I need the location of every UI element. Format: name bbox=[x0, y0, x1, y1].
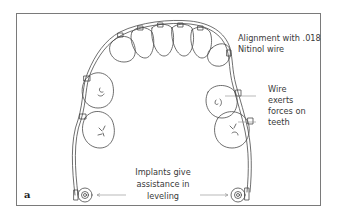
implant-right bbox=[231, 188, 249, 202]
annotation-implants-line1: Implants give bbox=[128, 166, 198, 178]
tooth-anterior-5 bbox=[191, 27, 212, 58]
tooth-anterior-2 bbox=[131, 28, 154, 59]
annotation-wire-forces-line2: exerts bbox=[268, 95, 306, 106]
annotation-implants: Implants give assistance in leveling bbox=[128, 166, 198, 202]
annotation-wire-forces-line4: teeth bbox=[268, 117, 306, 128]
tooth-anterior-3 bbox=[152, 24, 174, 56]
tooth-right-premolar-2 bbox=[214, 112, 249, 148]
implant-left bbox=[74, 188, 92, 202]
annotation-wire-forces: Wire exerts forces on teeth bbox=[268, 84, 306, 128]
annotation-alignment-line1: Alignment with .018 bbox=[238, 33, 321, 44]
annotation-alignment-line2: Nitinol wire bbox=[238, 44, 321, 55]
occlusal-mark-right-1 bbox=[215, 99, 222, 106]
tooth-left-premolar-2 bbox=[82, 111, 114, 148]
annotation-alignment: Alignment with .018 Nitinol wire bbox=[238, 33, 321, 54]
annotation-wire-forces-line1: Wire bbox=[268, 84, 306, 95]
annotation-implants-line2: assistance in bbox=[128, 178, 198, 190]
annotation-wire-forces-line3: forces on bbox=[268, 106, 306, 117]
occlusal-mark-right-2 bbox=[230, 124, 238, 135]
tooth-anterior-4 bbox=[172, 24, 194, 56]
dental-arch-diagram: Alignment with .018 Nitinol wire Wire ex… bbox=[0, 0, 339, 218]
occlusal-mark-left-2 bbox=[98, 126, 105, 136]
occlusal-mark-left-1 bbox=[98, 88, 104, 96]
panel-letter: a bbox=[24, 189, 30, 200]
annotation-implants-line3: leveling bbox=[128, 190, 198, 202]
